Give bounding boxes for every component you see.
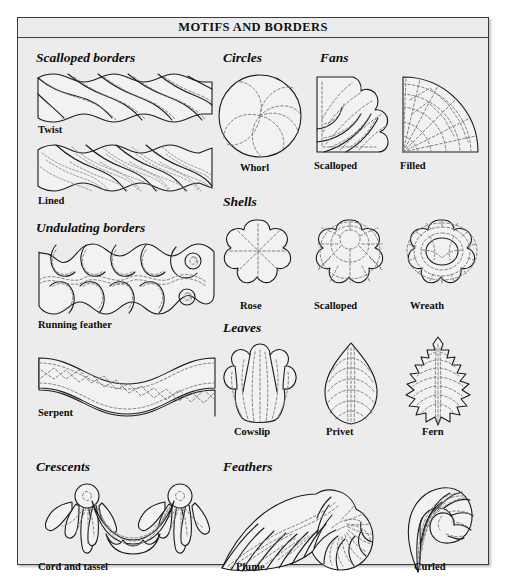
figure-whorl — [216, 72, 304, 160]
group-title-feathers: Feathers — [223, 459, 273, 475]
figure-cowslip — [218, 340, 302, 426]
figure-running-feather — [36, 240, 218, 318]
figure-shell-rose — [218, 216, 300, 296]
motifs-and-borders-plate: MOTIFS AND BORDERS Scalloped borders — [17, 17, 489, 565]
caption-cord-and-tassel: Cord and tassel — [38, 561, 108, 572]
caption-shell-wreath: Wreath — [410, 300, 444, 311]
figure-shell-scalloped — [308, 216, 394, 296]
plate-title-bar: MOTIFS AND BORDERS — [18, 18, 488, 38]
figure-shell-wreath — [400, 216, 486, 296]
group-title-fans: Fans — [320, 50, 349, 66]
caption-twist: Twist — [38, 124, 62, 135]
page-title: MOTIFS AND BORDERS — [178, 20, 328, 35]
caption-privet: Privet — [326, 426, 353, 437]
caption-fern: Fern — [422, 426, 444, 437]
group-title-scalloped-borders: Scalloped borders — [36, 50, 135, 66]
figure-fan-filled — [400, 74, 482, 156]
group-title-undulating-borders: Undulating borders — [36, 220, 145, 236]
group-title-shells: Shells — [223, 194, 257, 210]
caption-whorl: Whorl — [240, 162, 269, 173]
group-title-crescents: Crescents — [36, 459, 90, 475]
caption-lined: Lined — [38, 195, 64, 206]
caption-serpent: Serpent — [38, 407, 73, 418]
plate-board: Scalloped borders — [18, 38, 488, 564]
figure-cord-and-tassel — [32, 478, 220, 562]
figure-lined — [36, 142, 214, 194]
caption-fan-scalloped: Scalloped — [314, 160, 357, 171]
caption-shell-scalloped: Scalloped — [314, 300, 357, 311]
caption-running-feather: Running feather — [38, 319, 112, 330]
figure-fan-scalloped — [314, 74, 396, 156]
caption-shell-rose: Rose — [240, 300, 262, 311]
caption-cowslip: Cowslip — [234, 426, 270, 437]
group-title-leaves: Leaves — [223, 320, 261, 336]
caption-fan-filled: Filled — [400, 160, 426, 171]
caption-curled: Curled — [414, 561, 446, 572]
figure-privet — [314, 340, 388, 428]
figure-twist — [36, 72, 214, 124]
group-title-circles: Circles — [223, 50, 262, 66]
figure-fern — [400, 334, 476, 428]
caption-plume: Plume — [236, 561, 265, 572]
